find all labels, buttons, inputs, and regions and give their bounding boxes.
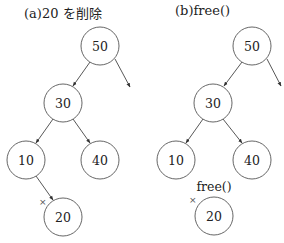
edge-30-40 — [73, 119, 90, 143]
cross-mark-icon: × — [189, 195, 197, 205]
svg-text:10: 10 — [18, 153, 34, 168]
svg-text:10: 10 — [168, 153, 184, 168]
node-30: 30 — [194, 84, 232, 122]
panel-a-edges — [36, 59, 130, 200]
tree-diagram: 50 30 10 40 20 × 50 30 10 40 free() — [0, 0, 284, 243]
node-10: 10 — [157, 141, 195, 179]
edge-30-10 — [186, 119, 203, 143]
edge-30-40 — [223, 119, 242, 143]
node-10: 10 — [7, 141, 45, 179]
cross-mark-icon: × — [39, 197, 47, 207]
svg-text:30: 30 — [205, 96, 221, 111]
edge-50-right — [267, 59, 281, 86]
svg-text:40: 40 — [244, 153, 260, 168]
node-40: 40 — [81, 141, 119, 179]
node-20-freed: 20 — [195, 197, 233, 235]
node-20-deleted: 20 — [44, 198, 82, 236]
edge-50-30 — [73, 62, 90, 86]
node-30: 30 — [44, 84, 82, 122]
edge-50-right — [115, 59, 130, 87]
svg-text:50: 50 — [244, 39, 260, 54]
free-label: free() — [196, 179, 231, 194]
node-50: 50 — [233, 27, 271, 65]
node-50: 50 — [81, 27, 119, 65]
svg-text:30: 30 — [55, 96, 71, 111]
node-40: 40 — [233, 141, 271, 179]
svg-text:20: 20 — [55, 210, 71, 225]
svg-text:20: 20 — [206, 209, 222, 224]
edge-30-10 — [36, 119, 53, 143]
svg-text:40: 40 — [92, 153, 108, 168]
edge-50-30 — [224, 62, 242, 86]
svg-text:50: 50 — [92, 39, 108, 54]
